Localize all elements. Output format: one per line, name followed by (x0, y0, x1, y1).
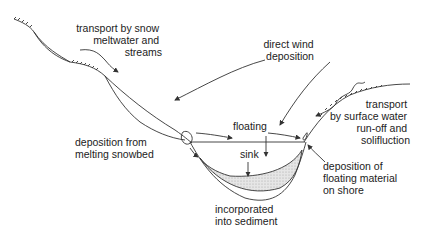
snow-meltwater-arrow (80, 50, 118, 72)
label-snowbed: deposition from melting snowbed (75, 136, 154, 160)
label-sediment: incorporated into sediment (215, 203, 278, 227)
label-surface-water: transport by surface water run-off and s… (330, 98, 410, 146)
label-snow-transport: transport by snow meltwater and streams (76, 22, 162, 58)
label-sink: sink (240, 148, 259, 160)
label-wind-deposition: direct wind deposition (263, 38, 316, 62)
label-floating: floating (233, 120, 267, 132)
label-shore-deposition: deposition of floating material on shore (323, 160, 400, 196)
floating-left-arrow (196, 133, 232, 138)
floating-right-arrow (268, 133, 300, 138)
wind-arrow-right (280, 62, 330, 125)
sediment-transport-diagram: transport by snow meltwater and streams … (0, 0, 425, 237)
wind-arrow-left (175, 60, 265, 100)
